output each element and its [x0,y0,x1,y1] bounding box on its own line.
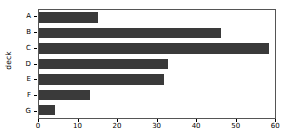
y-axis-tick-label-row: B [16,25,34,41]
bar-row [39,72,275,87]
y-axis-tick-label: E [27,76,31,83]
plot-area [38,9,276,119]
y-axis-tick-label-row: F [16,88,34,104]
x-axis-tick-labels: 0102030405060 [38,123,276,135]
y-axis-tick-label: F [27,92,31,99]
x-axis-tick-label: 40 [192,123,201,130]
x-axis-tick-label: 50 [231,123,240,130]
y-axis-tick-mark [34,64,37,65]
y-axis-tick-mark [34,111,37,112]
bar [39,12,98,22]
bar [39,28,221,38]
bar [39,43,269,53]
y-axis-tick-label: B [26,29,31,36]
y-axis-tick-mark [34,32,37,33]
x-axis-tick-label: 30 [152,123,161,130]
bar [39,59,168,69]
bar-row [39,56,275,71]
y-axis-tick-label-row: C [16,40,34,56]
y-axis-tick-label-row: E [16,72,34,88]
bar [39,90,90,100]
x-axis-tick-label: 10 [73,123,82,130]
y-axis-tick-mark [34,79,37,80]
bar-row [39,25,275,40]
y-axis-tick-label: A [26,13,31,20]
bar-row [39,87,275,102]
bar-row [39,103,275,118]
x-axis-tick-label: 20 [113,123,122,130]
x-axis-tick-label: 0 [36,123,40,130]
bar-chart-figure: deck ABCDEFG 0102030405060 [0,0,294,140]
y-axis-tick-mark [34,48,37,49]
y-axis-tick-mark [34,16,37,17]
y-axis-tick-label: D [26,61,31,68]
bar-row [39,10,275,25]
bar [39,74,164,84]
bar-series [39,10,275,118]
y-axis-tick-labels: ABCDEFG [16,9,34,119]
y-axis-tick-label: G [26,108,31,115]
y-axis-tick-label: C [26,45,31,52]
y-axis-tick-label-row: A [16,9,34,25]
bar-row [39,41,275,56]
x-axis-tick-label: 60 [271,123,280,130]
y-axis-tick-label-row: D [16,56,34,72]
y-axis-tick-mark [34,95,37,96]
y-axis-label: deck [4,51,13,69]
bar [39,105,55,115]
y-axis-tick-label-row: G [16,103,34,119]
y-axis-label-container: deck [0,0,16,120]
